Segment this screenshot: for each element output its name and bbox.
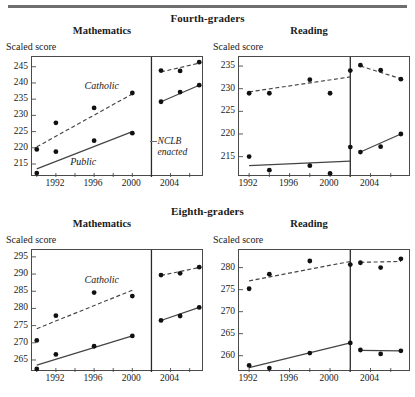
data-point-catholic <box>178 69 183 74</box>
chart-title-grade4-reading: Reading <box>229 25 389 36</box>
x-tick-label: 1992 <box>239 373 258 383</box>
data-point-catholic <box>358 260 363 265</box>
chart-grade8-mathematics: Mathematics Scaled score 265270275280285… <box>0 199 208 397</box>
chart-grade8-reading: Reading Scaled score 2602652702752801992… <box>207 199 415 397</box>
data-point-public <box>247 154 252 159</box>
data-point-catholic <box>92 106 97 111</box>
plot-canvas <box>32 57 204 177</box>
data-point-public <box>197 305 202 310</box>
data-point-catholic <box>247 91 252 96</box>
data-point-public <box>34 171 39 176</box>
y-axis-caption-grade8-mathematics: Scaled score <box>6 234 56 245</box>
plot-area-grade8-reading <box>238 249 410 371</box>
data-point-public <box>159 99 164 104</box>
data-point-public <box>130 334 135 339</box>
data-point-public <box>159 318 164 323</box>
chart-title-grade8-mathematics: Mathematics <box>22 218 182 229</box>
x-tick-label: 1992 <box>45 178 64 188</box>
data-point-public <box>307 351 312 356</box>
data-point-public <box>178 314 183 319</box>
y-tick-label: 290 <box>2 268 28 278</box>
data-point-catholic <box>178 271 183 276</box>
data-point-catholic <box>34 147 39 152</box>
y-tick-label: 235 <box>2 93 28 103</box>
series-label-catholic: Catholic <box>85 274 119 285</box>
plot-canvas <box>239 250 411 372</box>
data-point-catholic <box>358 63 363 68</box>
x-tick-label: 1996 <box>84 178 103 188</box>
data-point-catholic <box>247 286 252 291</box>
nclb-enacted-annotation: NCLBenacted <box>158 136 188 158</box>
x-tick-label: 1992 <box>45 373 64 383</box>
y-tick-label: 280 <box>209 262 235 272</box>
y-tick-label: 265 <box>209 328 235 338</box>
data-point-catholic <box>130 91 135 96</box>
trend-line-catholic <box>249 261 350 280</box>
plot-area-grade8-mathematics <box>31 249 203 371</box>
y-tick-label: 215 <box>2 158 28 168</box>
nclb-annotation-line-2: enacted <box>158 147 188 158</box>
data-point-catholic <box>378 265 383 270</box>
series-label-catholic: Catholic <box>85 80 119 91</box>
data-point-public <box>348 145 353 150</box>
y-tick-label: 225 <box>2 126 28 136</box>
data-point-catholic <box>130 294 135 299</box>
data-point-catholic <box>197 265 202 270</box>
trend-line-catholic <box>249 77 350 92</box>
data-point-catholic <box>307 77 312 82</box>
y-tick-label: 270 <box>2 337 28 347</box>
plot-canvas <box>32 250 204 372</box>
data-point-catholic <box>34 338 39 343</box>
data-point-catholic <box>53 313 58 318</box>
data-point-public <box>328 171 333 176</box>
x-tick-label: 2004 <box>160 178 179 188</box>
trend-line-public <box>249 161 350 166</box>
plot-area-grade4-mathematics <box>31 56 203 176</box>
y-tick-label: 220 <box>209 128 235 138</box>
data-point-public <box>178 90 183 95</box>
trend-line-catholic <box>37 290 133 328</box>
data-point-catholic <box>197 60 202 65</box>
panel-group-eighth-graders: Eighth-graders Mathematics Scaled score … <box>0 199 415 397</box>
chart-grade4-reading: Reading Scaled score 2152202252302351992… <box>207 0 415 198</box>
y-tick-label: 240 <box>2 77 28 87</box>
data-point-catholic <box>159 273 164 278</box>
nclb-leader-line <box>150 141 157 142</box>
data-point-catholic <box>348 68 353 73</box>
trend-line-public <box>249 343 350 368</box>
data-point-catholic <box>53 120 58 125</box>
data-point-public <box>130 131 135 136</box>
plot-area-grade4-reading <box>238 56 410 176</box>
y-tick-label: 295 <box>2 251 28 261</box>
x-tick-label: 2004 <box>360 373 379 383</box>
data-point-catholic <box>378 68 383 73</box>
data-point-public <box>267 366 272 371</box>
series-label-public: Public <box>70 156 96 167</box>
trend-line-catholic <box>37 94 133 147</box>
data-point-public <box>378 352 383 357</box>
x-tick-label: 1996 <box>279 373 298 383</box>
y-tick-label: 220 <box>2 142 28 152</box>
y-tick-label: 270 <box>209 306 235 316</box>
data-point-catholic <box>307 259 312 264</box>
data-point-public <box>53 149 58 154</box>
y-tick-label: 215 <box>209 151 235 161</box>
y-tick-label: 265 <box>2 354 28 364</box>
trend-line-public <box>37 336 133 365</box>
data-point-public <box>92 344 97 349</box>
x-tick-label: 1996 <box>84 373 103 383</box>
data-point-public <box>348 341 353 346</box>
y-tick-label: 285 <box>2 285 28 295</box>
chart-grade4-mathematics: Mathematics Scaled score 215220225230235… <box>0 0 208 198</box>
data-point-catholic <box>398 256 403 261</box>
panel-group-fourth-graders: Fourth-graders Mathematics Scaled score … <box>0 0 415 198</box>
data-point-catholic <box>92 290 97 295</box>
data-point-public <box>398 132 403 137</box>
y-tick-label: 230 <box>209 83 235 93</box>
data-point-public <box>358 348 363 353</box>
y-tick-label: 225 <box>209 105 235 115</box>
data-point-catholic <box>348 262 353 267</box>
data-point-public <box>307 163 312 168</box>
data-point-public <box>358 150 363 155</box>
trend-line-public <box>360 134 400 152</box>
